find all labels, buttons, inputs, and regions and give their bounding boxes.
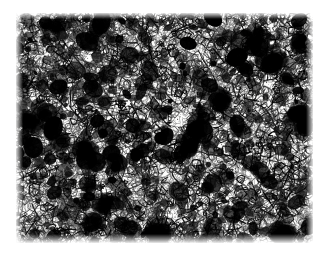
page-background — [0, 0, 323, 260]
micrograph-image — [16, 13, 313, 243]
micrograph-plate — [16, 13, 313, 243]
